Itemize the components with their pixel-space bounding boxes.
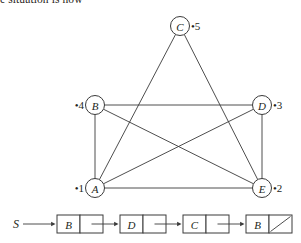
graph-node-tag-A: •1	[75, 183, 84, 194]
graph-node-tag-B: •4	[75, 100, 84, 111]
list-arrow-1-head	[177, 222, 181, 227]
graph-node-B[interactable]	[86, 96, 105, 115]
list-node-data-cell[interactable]	[246, 215, 269, 233]
list-start-label: S	[13, 218, 19, 230]
graph-node-C[interactable]	[171, 17, 190, 36]
list-node-data-cell[interactable]	[57, 215, 80, 233]
graph-node-D[interactable]	[253, 96, 272, 115]
graph-node-E[interactable]	[253, 179, 272, 198]
graph-diagram: A•1B•4C•5D•3E•2	[0, 0, 301, 208]
graph-node-A[interactable]	[86, 179, 105, 198]
graph-node-tag-C: •5	[191, 21, 200, 32]
linked-list-diagram: BDCB S	[0, 206, 301, 243]
graph-edge-AC	[99, 34, 175, 179]
list-arrow-start-head	[51, 222, 55, 227]
list-arrow-2-head	[240, 222, 244, 227]
list-node-data-cell[interactable]	[183, 215, 206, 233]
graph-edge-CE	[184, 34, 257, 179]
graph-edges-layer	[0, 0, 301, 208]
list-node-data-cell[interactable]	[120, 215, 143, 233]
linked-list-boxes-layer	[0, 206, 301, 243]
graph-node-tag-D: •3	[273, 100, 282, 111]
list-arrow-0-head	[114, 222, 118, 227]
graph-node-tag-E: •2	[273, 183, 282, 194]
